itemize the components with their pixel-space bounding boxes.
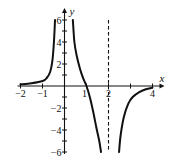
y-tick-label: 4: [57, 37, 62, 48]
y-tick-label: −2: [51, 103, 62, 114]
x-axis-label: x: [159, 72, 165, 84]
y-axis-label: y: [69, 5, 75, 17]
y-tick-label: −4: [51, 125, 62, 136]
y-axis-arrow-icon: [62, 8, 67, 13]
x-tick-label: 4: [150, 88, 155, 99]
x-tick-label: 1: [82, 88, 87, 99]
y-tick-label: 2: [57, 59, 62, 70]
y-tick-label: −6: [51, 147, 62, 158]
rational-function-graph: −2−1124642−2−4−6 x y: [0, 0, 171, 167]
plot-area: −2−1124642−2−4−6 x y: [0, 0, 171, 167]
y-tick-label: 6: [57, 15, 62, 26]
x-tick-label: −1: [37, 88, 48, 99]
curve-left-branch: [21, 20, 56, 84]
x-tick-label: −2: [15, 88, 26, 99]
curve-right-branch: [119, 88, 152, 152]
x-axis-arrow-icon: [160, 84, 165, 89]
